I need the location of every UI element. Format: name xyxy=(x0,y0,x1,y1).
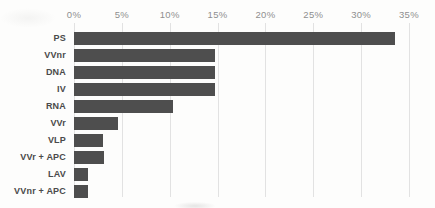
bar xyxy=(74,134,103,147)
bar xyxy=(74,49,215,62)
bar xyxy=(74,185,88,198)
bar-chart: 0%5%10%15%20%25%30%35% PSVVnrDNAIVRNAVVr… xyxy=(0,0,435,208)
bar xyxy=(74,151,104,164)
category-label: VVr + APC xyxy=(0,151,66,164)
scanned-page: 0%5%10%15%20%25%30%35% PSVVnrDNAIVRNAVVr… xyxy=(0,0,435,208)
category-label: VVnr + APC xyxy=(0,185,66,198)
category-label: PS xyxy=(0,32,66,45)
x-axis-tick-label: 10% xyxy=(160,9,180,20)
gridline xyxy=(361,23,362,197)
category-label: VLP xyxy=(0,134,66,147)
bar xyxy=(74,168,88,181)
gridline xyxy=(218,23,219,197)
category-label: LAV xyxy=(0,168,66,181)
bar xyxy=(74,83,215,96)
x-axis-tick-label: 20% xyxy=(255,9,275,20)
x-axis-tick-label: 5% xyxy=(115,9,129,20)
gridline xyxy=(265,23,266,197)
bar xyxy=(74,117,118,130)
category-label: VVnr xyxy=(0,49,66,62)
bar xyxy=(74,100,173,113)
x-axis-tick-label: 0% xyxy=(67,9,81,20)
x-axis-tick-label: 30% xyxy=(351,9,371,20)
x-axis-tick-label: 25% xyxy=(303,9,323,20)
category-label: DNA xyxy=(0,66,66,79)
gridline xyxy=(409,23,410,197)
x-axis-tick-label: 15% xyxy=(208,9,228,20)
category-label: VVr xyxy=(0,117,66,130)
bar xyxy=(74,66,215,79)
gridline xyxy=(313,23,314,197)
x-axis-tick-label: 35% xyxy=(399,9,419,20)
bar xyxy=(74,32,395,45)
category-label: IV xyxy=(0,83,66,96)
category-label: RNA xyxy=(0,100,66,113)
